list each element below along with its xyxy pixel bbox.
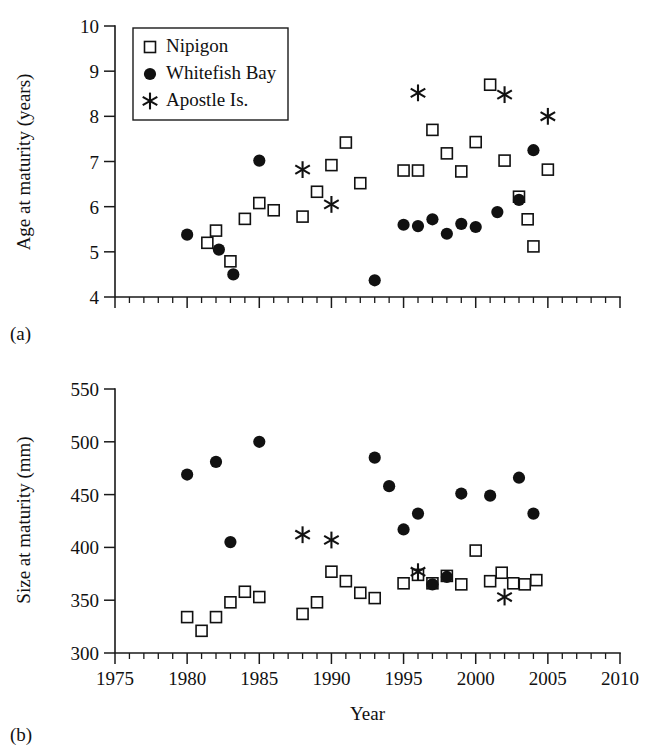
data-point-whitefish-bay-1 (213, 243, 225, 255)
x-tick-label-1990: 1990 (312, 668, 350, 689)
data-point-nipigon-1 (211, 225, 222, 236)
data-point-nipigon-18 (499, 155, 510, 166)
panel-a-age-at-maturity: 45678910Age at maturity (years)NipigonWh… (0, 0, 665, 370)
panel-b-size-at-maturity: 3003504004505005501975198019851990199520… (0, 360, 665, 751)
y-tick-label-350: 350 (71, 590, 100, 611)
panel-label-b: (b) (10, 724, 32, 746)
y-axis-title: Size at maturity (mm) (13, 436, 35, 603)
data-point-nipigon-6 (297, 211, 308, 222)
data-point-apostle-is-0 (295, 161, 310, 178)
data-point-whitefish-bay-13 (527, 144, 539, 156)
y-tick-label-4: 4 (90, 287, 100, 308)
data-point-apostle-is-1 (324, 196, 339, 213)
x-axis-title: Year (350, 703, 386, 724)
data-point-nipigon-18 (485, 576, 496, 587)
data-point-nipigon-22 (531, 575, 542, 586)
legend-label-3: Apostle Is. (166, 89, 248, 110)
x-axis: 19751980198519901995200020052010 (96, 653, 639, 689)
data-point-whitefish-bay-0 (181, 468, 193, 480)
data-point-nipigon-12 (413, 165, 424, 176)
data-point-apostle-is-3 (497, 589, 512, 606)
data-point-whitefish-bay-9 (455, 218, 467, 230)
data-point-nipigon-2 (225, 256, 236, 267)
y-tick-label-9: 9 (90, 61, 100, 82)
x-tick-label-2000: 2000 (457, 668, 495, 689)
data-point-whitefish-bay-0 (181, 229, 193, 241)
data-point-whitefish-bay-2 (227, 268, 239, 280)
data-point-whitefish-bay-1 (210, 456, 222, 468)
data-point-nipigon-5 (254, 592, 265, 603)
data-point-nipigon-4 (239, 586, 250, 597)
data-point-nipigon-4 (254, 198, 265, 209)
data-point-nipigon-22 (542, 164, 553, 175)
data-point-whitefish-bay-7 (426, 213, 438, 225)
data-point-apostle-is-2 (411, 84, 426, 101)
y-tick-label-400: 400 (71, 537, 100, 558)
data-point-nipigon-8 (326, 566, 337, 577)
data-point-whitefish-bay-5 (383, 480, 395, 492)
series-whitefish-bay (181, 436, 539, 591)
x-tick-label-1995: 1995 (385, 668, 423, 689)
data-point-whitefish-bay-4 (369, 452, 381, 464)
y-tick-label-550: 550 (71, 379, 100, 400)
y-axis: 300350400450500550 (71, 379, 116, 664)
data-point-nipigon-15 (456, 166, 467, 177)
x-tick-label-2005: 2005 (529, 668, 567, 689)
data-point-nipigon-11 (369, 593, 380, 604)
panel-label-a: (a) (10, 323, 31, 345)
data-point-nipigon-0 (202, 237, 213, 248)
data-point-nipigon-20 (508, 578, 519, 589)
data-point-nipigon-11 (398, 165, 409, 176)
x-tick-label-2010: 2010 (601, 668, 639, 689)
x-tick-label-1975: 1975 (96, 668, 134, 689)
data-point-whitefish-bay-9 (441, 571, 453, 583)
data-point-whitefish-bay-10 (470, 221, 482, 233)
data-point-nipigon-17 (470, 545, 481, 556)
x-axis (115, 297, 620, 308)
data-point-nipigon-10 (355, 178, 366, 189)
data-point-nipigon-10 (355, 587, 366, 598)
data-point-apostle-is-3 (497, 86, 512, 103)
data-point-whitefish-bay-3 (253, 436, 265, 448)
panel-a-plot: 45678910Age at maturity (years)NipigonWh… (0, 0, 665, 370)
legend-label-1: Nipigon (166, 35, 229, 56)
data-point-nipigon-7 (312, 597, 323, 608)
y-tick-label-500: 500 (71, 432, 100, 453)
y-axis: 45678910 (80, 16, 115, 308)
y-axis-title: Age at maturity (years) (13, 74, 35, 251)
data-point-whitefish-bay-8 (441, 228, 453, 240)
data-point-nipigon-21 (519, 579, 530, 590)
data-point-whitefish-bay-12 (513, 472, 525, 484)
data-point-nipigon-7 (312, 186, 323, 197)
y-tick-label-300: 300 (71, 643, 100, 664)
data-point-nipigon-1 (196, 625, 207, 636)
y-tick-label-6: 6 (90, 197, 100, 218)
data-point-whitefish-bay-8 (426, 578, 438, 590)
legend-label-2: Whitefish Bay (166, 62, 277, 83)
y-tick-label-450: 450 (71, 485, 100, 506)
data-point-nipigon-3 (225, 597, 236, 608)
x-tick-label-1985: 1985 (240, 668, 278, 689)
legend: NipigonWhitefish BayApostle Is. (133, 28, 288, 120)
data-point-whitefish-bay-5 (397, 219, 409, 231)
legend-marker-open-square-icon (145, 42, 156, 53)
data-point-apostle-is-1 (324, 532, 339, 549)
data-point-whitefish-bay-11 (484, 490, 496, 502)
data-point-nipigon-14 (441, 148, 452, 159)
data-point-nipigon-9 (340, 576, 351, 587)
y-tick-label-5: 5 (90, 242, 100, 263)
data-point-nipigon-12 (398, 578, 409, 589)
data-point-nipigon-8 (326, 160, 337, 171)
data-point-nipigon-16 (470, 137, 481, 148)
data-point-nipigon-6 (297, 608, 308, 619)
data-point-whitefish-bay-2 (224, 536, 236, 548)
data-point-nipigon-0 (182, 612, 193, 623)
data-point-whitefish-bay-10 (455, 487, 467, 499)
data-point-whitefish-bay-4 (369, 274, 381, 286)
panel-b-plot: 3003504004505005501975198019851990199520… (0, 360, 665, 751)
data-point-apostle-is-0 (295, 526, 310, 543)
data-point-nipigon-2 (211, 612, 222, 623)
data-point-nipigon-13 (427, 124, 438, 135)
data-point-nipigon-3 (239, 213, 250, 224)
x-tick-label-1980: 1980 (168, 668, 206, 689)
